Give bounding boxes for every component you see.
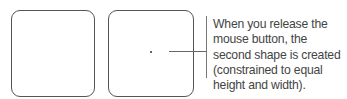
callout-bracket-line	[206, 16, 207, 78]
first-rounded-square	[11, 10, 95, 97]
callout-text: When you release the mouse button, the s…	[213, 17, 347, 93]
second-rounded-square	[108, 10, 194, 97]
callout-leader-line	[169, 51, 206, 52]
cursor-point-marker	[150, 51, 152, 53]
